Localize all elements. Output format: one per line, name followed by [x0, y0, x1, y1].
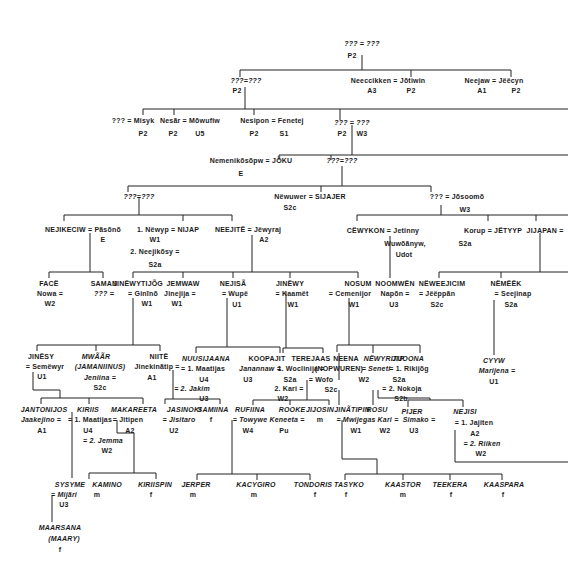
- noomwen-code: U3: [389, 301, 398, 309]
- nejikeciw-code: E: [101, 236, 106, 244]
- rufiina-code: W4: [243, 427, 254, 435]
- rosu-name: ROSU: [366, 406, 387, 414]
- kaastor-sex: m: [400, 491, 406, 499]
- gen5-a-couple: ???=???: [123, 193, 154, 201]
- rosu-spouse: Kari =: [378, 416, 399, 424]
- jijoona-name: JIJOONA: [392, 355, 424, 363]
- neena-alias: (NOPWUREN): [315, 365, 363, 373]
- face-name: FACË: [39, 280, 58, 288]
- gen5-c-couple: ??? = Jõsoomõ: [430, 193, 485, 201]
- tasyko-sex: f: [345, 491, 348, 499]
- niite-spouse: Jinekinãtip =: [134, 363, 179, 371]
- jemwaw-spouse: Jinejija =: [164, 290, 196, 298]
- tasyko-name: TASYKO: [334, 481, 364, 489]
- gen3-a-couple: ??? = Misyk: [112, 117, 154, 125]
- jinesy-spouse: = Semëwyr: [26, 363, 65, 371]
- nosum-code: W1: [349, 301, 360, 309]
- cyyw-code: U1: [489, 378, 498, 386]
- nejikeciw-couple: NEJIKECIW = Pãsõnõ: [45, 226, 121, 234]
- gen2-right-code-b: P2: [512, 87, 521, 95]
- gen5-b-code: S2c: [283, 204, 296, 212]
- newyp-code: W1: [150, 236, 161, 244]
- neena-spouse: = Wofo: [309, 376, 334, 384]
- jerper-sex: m: [190, 491, 196, 499]
- mwaar-alias: (JAMANIINUS): [75, 363, 126, 371]
- nuusijaana-name: NUUSIJAANA: [182, 355, 230, 363]
- nosum-name: NOSUM: [344, 280, 371, 288]
- jinewy-code: W1: [288, 301, 299, 309]
- rooke-code: Pu: [279, 427, 288, 435]
- jinatipin-name: JINÃTIPIN: [334, 406, 370, 414]
- kaaspara-name: KAASPARA: [484, 481, 525, 489]
- gen3-d-couple: ??? = ???: [334, 119, 369, 127]
- kaastor-name: KAASTOR: [385, 481, 421, 489]
- tondoris-name: TONDORIS: [294, 481, 332, 489]
- mwaar-spouse: Jeniina =: [84, 374, 116, 382]
- jijoona-code2: S2b: [394, 395, 407, 403]
- cewykon-spouse3: Udot: [396, 251, 413, 259]
- kiriispin-name: KIRIISPIN: [138, 481, 172, 489]
- gen3-c-couple: Nesipon = Fenetej: [240, 117, 304, 125]
- gen3-d-code-a: P2: [338, 130, 347, 138]
- face-spouse: Nowa =: [37, 290, 63, 298]
- nejisa-name: NEJISÃ: [220, 280, 247, 288]
- terejaas-code1: S2a: [283, 376, 296, 384]
- gen2-right-code-a: A1: [477, 87, 486, 95]
- jinewytijog-spouse: = Ginĩnõ: [128, 290, 158, 298]
- samiina-name: SAMIINA: [198, 406, 229, 414]
- jinesy-code: U1: [37, 373, 46, 381]
- gen5-b-couple: Nëwuwer = SIJAJER: [274, 193, 345, 201]
- gen2-left-code: P2: [233, 87, 242, 95]
- nuusijaana-spouse2: = 2. Jakim: [174, 385, 210, 393]
- nejisi-name: NEJISI: [453, 408, 476, 416]
- kacygiro-name: KACYGIRO: [236, 481, 275, 489]
- gen3-b-couple: Nesãr = Mõwufiw: [160, 117, 220, 125]
- maarsana-alias: (MAARY): [48, 535, 80, 543]
- jasinoki-name: JASINOKI: [167, 406, 202, 414]
- neejite-code: A2: [259, 236, 268, 244]
- gen2-mid-couple: Neeccikken = Jõtiwin: [351, 77, 426, 85]
- jijapan: JIJAPAN =: [527, 227, 564, 235]
- gen3-d-code-b: W3: [357, 130, 368, 138]
- cewykon-spouse2: Wuwõãnyw,: [384, 240, 425, 248]
- kaaspara-sex: f: [502, 491, 505, 499]
- kiriis-name: KIRIIS: [77, 406, 99, 414]
- nemeek-code: S2a: [504, 301, 517, 309]
- gen2-right-couple: Neejaw = Jëëcyn: [465, 77, 524, 85]
- terejaas-code2: W2: [278, 395, 289, 403]
- nuusijaana-code2: U3: [199, 395, 208, 403]
- teekera-name: TEEKERA: [433, 481, 468, 489]
- mwaar-code: S2c: [93, 384, 106, 392]
- cewykon-couple: CËWYKON = Jetinny: [347, 227, 419, 235]
- gen4-b-couple: ???=???: [326, 157, 357, 165]
- jantonijos-code: A1: [37, 427, 46, 435]
- newyritip-code: W2: [359, 376, 370, 384]
- gen3-a-code: P2: [139, 130, 148, 138]
- neweejicim-code: S2c: [430, 301, 443, 309]
- jijoona-code1: S2a: [392, 376, 405, 384]
- jinewytijog-code: W1: [142, 300, 153, 308]
- gen2-mid-code-a: A3: [367, 87, 376, 95]
- jinatipin-spouse: = Mwijegas: [336, 416, 375, 424]
- makareeta-name: MAKAREETA: [111, 406, 157, 414]
- neejikosy-code: S2a: [148, 261, 161, 269]
- saman-spouse: ??? =: [94, 290, 114, 298]
- sysyme-name: SYSYME: [55, 481, 85, 489]
- tondoris-sex: f: [314, 491, 317, 499]
- kiriis-code1: U4: [83, 427, 92, 435]
- root-code: P2: [348, 52, 357, 60]
- pijer-name: PIJER: [401, 408, 422, 416]
- teekera-sex: f: [450, 491, 453, 499]
- rufiina-name: RUFIINA: [235, 406, 265, 414]
- korup-code: S2a: [458, 240, 471, 248]
- samiina-sex: f: [210, 416, 213, 424]
- koopajit-code: U3: [243, 376, 252, 384]
- jinatipin-code: W1: [351, 427, 362, 435]
- gen2-mid-code-b: P2: [407, 87, 416, 95]
- sysyme-spouse: = Mijãri: [51, 491, 77, 499]
- rooke-name: ROOKE: [279, 406, 306, 414]
- nemeek-name: NËMËËK: [490, 280, 521, 288]
- jijoona-spouse2: = 2. Nokoja: [382, 385, 421, 393]
- terejaas-name: TEREJAAS: [292, 355, 331, 363]
- niite-code: A1: [147, 374, 156, 382]
